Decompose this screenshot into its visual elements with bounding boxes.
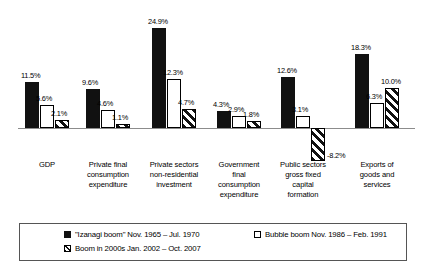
bar-value-label: 10.0%	[381, 78, 401, 86]
zero-baseline-axis	[18, 128, 415, 129]
category-axis-labels: GDPPrivate final consumption expenditure…	[0, 160, 426, 210]
legend-item-boom-2000s: Boom in 2000s Jan. 2002 – Oct. 2007	[64, 244, 201, 253]
bar-value-label: 12.3%	[163, 69, 183, 77]
legend-swatch-open-icon	[254, 231, 261, 238]
bar-2-2	[182, 109, 196, 128]
bar-5-1	[370, 103, 384, 128]
legend-item-bubble-boom: Bubble boom Nov. 1986 – Feb. 1991	[254, 230, 387, 239]
bar-4-2	[311, 128, 325, 161]
bar-1-2	[116, 124, 130, 128]
bar-4-1	[296, 116, 310, 128]
bar-4-0	[281, 77, 295, 128]
category-label-1: Private final consumption expenditure	[74, 160, 142, 190]
legend-label-bubble-boom: Bubble boom Nov. 1986 – Feb. 1991	[265, 230, 387, 239]
legend: "Izanagi boom" Nov. 1965 – Jul. 1970 Boo…	[19, 223, 407, 261]
bar-value-label: 2.1%	[51, 110, 67, 118]
category-label-5: Exports of goods and services	[343, 160, 411, 190]
bar-value-label: 2.9%	[228, 106, 244, 114]
bar-value-label: 9.6%	[82, 79, 98, 87]
bar-value-label: -8.2%	[327, 152, 345, 160]
category-label-2: Private sectors non-residential investme…	[140, 160, 208, 190]
legend-swatch-solid-icon	[64, 231, 71, 238]
bar-value-label: 12.6%	[277, 67, 297, 75]
bar-value-label: 11.5%	[21, 72, 40, 80]
bar-2-0	[152, 28, 166, 128]
category-label-4: Public sectors gross fixed capital forma…	[269, 160, 337, 200]
legend-label-boom-2000s: Boom in 2000s Jan. 2002 – Oct. 2007	[75, 244, 201, 253]
category-label-3: Government final consumption expenditure	[205, 160, 273, 200]
legend-label-izanagi-boom: "Izanagi boom" Nov. 1965 – Jul. 1970	[75, 230, 199, 239]
bar-value-label: 18.3%	[351, 44, 371, 52]
legend-swatch-hatch-icon	[64, 245, 71, 252]
category-label-0: GDP	[13, 160, 81, 170]
legend-item-izanagi-boom: "Izanagi boom" Nov. 1965 – Jul. 1970	[64, 230, 199, 239]
bar-value-label: 6.3%	[366, 93, 382, 101]
bar-value-label: 4.3%	[213, 101, 229, 109]
bar-chart: 11.5%9.6%24.9%4.3%12.6%18.3%5.6%4.6%12.3…	[0, 0, 426, 275]
bar-value-label: 24.9%	[148, 18, 168, 26]
bar-5-2	[385, 88, 399, 128]
bar-value-label: 1.8%	[243, 111, 259, 119]
bar-3-2	[247, 121, 261, 128]
bar-0-0	[25, 82, 39, 128]
bar-value-label: 4.7%	[178, 99, 194, 107]
bar-0-2	[55, 120, 69, 128]
bar-value-label: 1.1%	[112, 114, 128, 122]
bar-value-label: 5.6%	[36, 95, 52, 103]
bar-value-label: 3.1%	[292, 106, 308, 114]
bar-value-label: 4.6%	[97, 100, 113, 108]
bar-1-0	[86, 89, 100, 128]
